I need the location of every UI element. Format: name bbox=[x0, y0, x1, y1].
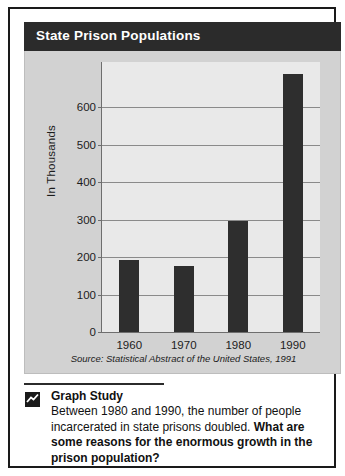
page-frame: State Prison Populations In Thousands 01… bbox=[8, 7, 336, 468]
chart-figure: State Prison Populations In Thousands 01… bbox=[24, 22, 341, 374]
line-chart-icon bbox=[25, 392, 40, 407]
y-tick-label: 400 bbox=[77, 176, 96, 188]
y-tick-label: 200 bbox=[77, 251, 96, 263]
chart-body: In Thousands 010020030040050060019601970… bbox=[24, 51, 341, 374]
y-tick-label: 600 bbox=[77, 101, 96, 113]
caption-heading: Graph Study bbox=[51, 389, 332, 404]
bar-1960 bbox=[119, 260, 139, 332]
caption-text: Between 1980 and 1990, the number of peo… bbox=[51, 404, 332, 466]
x-tick-label: 1970 bbox=[171, 339, 197, 351]
y-tick-label: 100 bbox=[77, 289, 96, 301]
bar-1990 bbox=[283, 74, 303, 332]
page: State Prison Populations In Thousands 01… bbox=[0, 0, 345, 476]
chart-title: State Prison Populations bbox=[36, 28, 201, 43]
bar-1970 bbox=[174, 266, 194, 332]
chart-title-bar: State Prison Populations bbox=[24, 22, 341, 51]
plot-area: 01002003004005006001960197019801990 bbox=[101, 62, 320, 333]
chart-source: Source: Statistical Abstract of the Unit… bbox=[25, 353, 342, 364]
y-tick-mark bbox=[98, 257, 102, 258]
y-tick-label: 500 bbox=[77, 139, 96, 151]
y-tick-mark bbox=[98, 145, 102, 146]
caption-body: Graph Study Between 1980 and 1990, the n… bbox=[51, 389, 332, 466]
y-tick-mark bbox=[98, 220, 102, 221]
y-tick-mark bbox=[98, 295, 102, 296]
y-tick-mark bbox=[98, 107, 102, 108]
bar-1980 bbox=[228, 221, 248, 332]
y-tick-label: 0 bbox=[90, 326, 96, 338]
y-tick-label: 300 bbox=[77, 214, 96, 226]
y-axis-title: In Thousands bbox=[45, 111, 57, 211]
y-tick-mark bbox=[98, 332, 102, 333]
caption-divider bbox=[24, 383, 164, 385]
x-tick-label: 1960 bbox=[116, 339, 142, 351]
y-tick-mark bbox=[98, 182, 102, 183]
x-tick-label: 1980 bbox=[225, 339, 251, 351]
x-tick-label: 1990 bbox=[280, 339, 306, 351]
